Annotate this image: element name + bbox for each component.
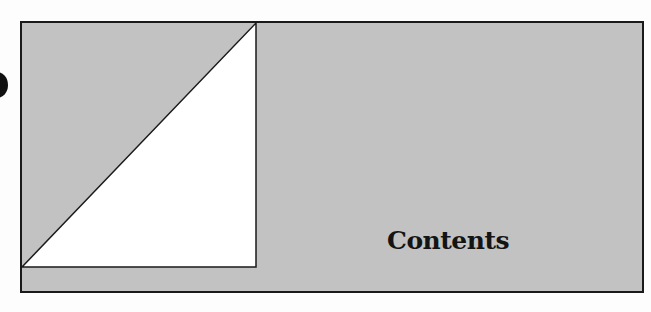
page: Contents: [0, 0, 651, 312]
triangle-graphic: [0, 0, 651, 312]
section-title: Contents: [387, 226, 509, 255]
